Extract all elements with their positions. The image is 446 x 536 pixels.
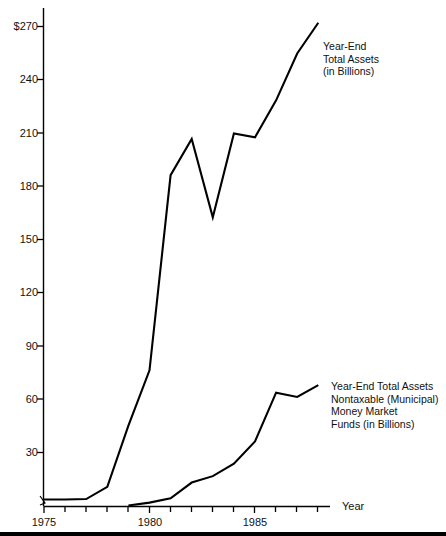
x-tick-label-1985: 1985 <box>225 516 285 528</box>
bottom-rule <box>0 532 446 536</box>
y-tick-label-60: 60 <box>0 393 38 405</box>
x-axis-title: Year <box>342 500 364 512</box>
annotation-lower-line-3: Money Market <box>331 405 438 418</box>
line-chart-plot <box>0 0 446 536</box>
annotation-lower-series: Year-End Total Assets Nontaxable (Munici… <box>331 380 438 430</box>
chart-figure: $270 240 210 180 150 120 90 60 30 1975 1… <box>0 0 446 536</box>
annotation-upper-line-1: Year-End <box>323 40 379 53</box>
annotation-lower-line-4: Funds (in Billions) <box>331 418 438 431</box>
y-tick-label-90: 90 <box>0 340 38 352</box>
x-axis-ticks <box>44 507 318 514</box>
y-tick-label-180: 180 <box>0 180 38 192</box>
x-tick-label-1975: 1975 <box>14 516 74 528</box>
y-tick-label-30: 30 <box>0 446 38 458</box>
y-tick-label-270: $270 <box>0 20 38 32</box>
annotation-upper-line-3: (in Billions) <box>323 65 379 78</box>
x-tick-label-1980: 1980 <box>120 516 180 528</box>
y-tick-label-240: 240 <box>0 73 38 85</box>
annotation-upper-series: Year-End Total Assets (in Billions) <box>323 40 379 78</box>
y-tick-label-150: 150 <box>0 233 38 245</box>
annotation-lower-line-1: Year-End Total Assets <box>331 380 438 393</box>
series-line-total-assets <box>44 23 318 500</box>
annotation-upper-line-2: Total Assets <box>323 53 379 66</box>
series-line-municipal-funds <box>128 385 318 505</box>
y-tick-label-120: 120 <box>0 286 38 298</box>
origin-arrow-marker <box>40 496 45 505</box>
y-tick-label-210: 210 <box>0 127 38 139</box>
annotation-lower-line-2: Nontaxable (Municipal) <box>331 393 438 406</box>
